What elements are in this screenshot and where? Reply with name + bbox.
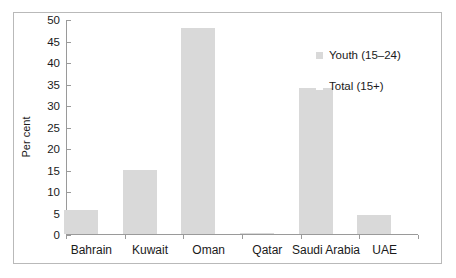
y-tick-label: 30 xyxy=(47,100,60,112)
bar-kuwait[interactable] xyxy=(123,170,157,235)
y-tick-label: 25 xyxy=(47,122,60,134)
y-tick-mark xyxy=(67,128,71,129)
y-tick-label: 5 xyxy=(54,208,60,220)
x-tick-mark xyxy=(66,235,67,239)
x-tick-mark xyxy=(359,235,360,239)
y-tick-label: 15 xyxy=(47,165,60,177)
x-label-kuwait: Kuwait xyxy=(132,243,168,257)
y-tick-mark xyxy=(67,20,71,21)
y-tick-label: 0 xyxy=(54,229,60,241)
y-tick-label: 50 xyxy=(47,14,60,26)
y-tick-mark xyxy=(67,235,71,236)
y-tick-mark xyxy=(67,106,71,107)
y-tick-mark xyxy=(67,85,71,86)
y-tick-mark xyxy=(67,149,71,150)
y-axis-title: Per cent xyxy=(18,100,34,174)
x-tick-mark xyxy=(183,235,184,239)
y-tick-mark xyxy=(67,42,71,43)
y-tick-label: 20 xyxy=(47,143,60,155)
y-axis-title-text: Per cent xyxy=(20,117,32,158)
legend-swatch-total-icon xyxy=(316,83,323,90)
bar-uae[interactable] xyxy=(357,215,391,234)
x-tick-mark xyxy=(301,235,302,239)
legend-item-youth[interactable]: Youth (15–24) xyxy=(316,48,401,62)
x-tick-mark xyxy=(125,235,126,239)
y-tick-mark xyxy=(67,63,71,64)
chart-figure: Per cent 05101520253035404550 Youth (15–… xyxy=(0,0,456,278)
x-tick-mark xyxy=(418,235,419,239)
x-tick-mark xyxy=(242,235,243,239)
y-tick-label: 35 xyxy=(47,79,60,91)
x-label-bahrain: Bahrain xyxy=(71,243,112,257)
legend-label-youth: Youth (15–24) xyxy=(329,48,401,62)
legend-swatch-youth-icon xyxy=(316,52,323,59)
bar-qatar[interactable] xyxy=(240,233,274,234)
y-tick-label: 10 xyxy=(47,186,60,198)
chart-legend: Youth (15–24) Total (15+) xyxy=(316,48,401,110)
legend-item-total[interactable]: Total (15+) xyxy=(316,79,401,93)
y-tick-mark xyxy=(67,171,71,172)
bar-oman[interactable] xyxy=(181,28,215,234)
x-label-uae: UAE xyxy=(372,243,397,257)
y-tick-label: 40 xyxy=(47,57,60,69)
x-label-qatar: Qatar xyxy=(252,243,282,257)
y-tick-label: 45 xyxy=(47,36,60,48)
bar-saudi-arabia[interactable] xyxy=(299,88,333,234)
x-label-oman: Oman xyxy=(192,243,225,257)
y-tick-mark xyxy=(67,192,71,193)
legend-label-total: Total (15+) xyxy=(329,79,384,93)
x-label-saudi-arabia: Saudi Arabia xyxy=(292,243,360,257)
bar-bahrain[interactable] xyxy=(64,210,98,235)
